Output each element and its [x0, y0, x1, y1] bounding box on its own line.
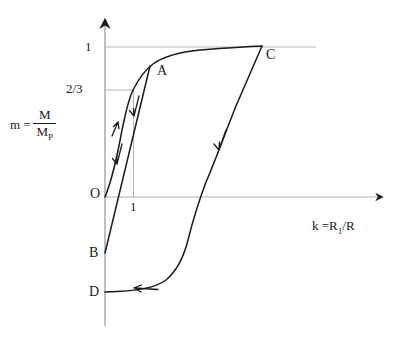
- unloading-CD-path: [105, 46, 262, 292]
- point-label-C: C: [266, 48, 275, 62]
- y-axis-label-denominator: MP: [33, 125, 56, 142]
- y-axis-label-numerator: M: [36, 108, 54, 122]
- y-tick-label-1: 1: [85, 40, 92, 53]
- point-label-D: D: [89, 285, 99, 299]
- x-axis-label-equals: =: [322, 218, 329, 233]
- y-axis-label-fraction: M MP: [33, 108, 56, 142]
- x-axis-label: k =R1/R: [312, 218, 355, 236]
- point-label-A: A: [157, 64, 167, 78]
- origin-label-O: O: [90, 187, 100, 201]
- axes-lines: [105, 20, 382, 326]
- y-axis-label-variable: m: [10, 117, 20, 133]
- x-axis-label-divider: /R: [342, 218, 354, 233]
- x-axis-label-variable: k: [312, 218, 319, 233]
- y-axis-label-equals: =: [23, 117, 30, 133]
- hysteresis-plot: [0, 0, 412, 343]
- y-axis-label-denominator-base: M: [36, 124, 48, 139]
- figure-root: 1 2/3 1 O A C B D m = M MP k =R1/R: [0, 0, 412, 343]
- arrow-loading-up: [112, 122, 119, 136]
- unloading-AB-line: [105, 66, 150, 253]
- curve-unloading-AB: [105, 66, 150, 253]
- x-tick-label-1: 1: [130, 200, 137, 213]
- y-tick-label-two-thirds: 2/3: [66, 82, 83, 95]
- x-axis-label-numerator-base: R: [329, 218, 338, 233]
- arrow-unloading-CD-upper: [214, 130, 226, 150]
- curve-unloading-CD: [105, 46, 262, 292]
- arrow-unloading-AB-upper: [130, 96, 140, 116]
- cropped-caption-strip: [0, 330, 412, 343]
- curve-loading-OAC: [105, 46, 262, 197]
- point-label-B: B: [89, 246, 98, 260]
- y-axis-label-denominator-subscript: P: [48, 131, 53, 141]
- y-axis-label: m = M MP: [10, 108, 56, 142]
- loading-path: [105, 46, 262, 197]
